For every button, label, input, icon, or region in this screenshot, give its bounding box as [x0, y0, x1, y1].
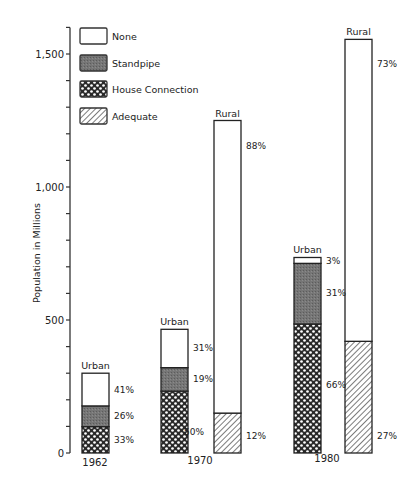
legend-swatch-house [80, 81, 107, 97]
pct-label-1970-urban-standpipe: 19% [193, 374, 213, 384]
pct-label-1970-urban-house: 50% [184, 427, 204, 437]
legend-swatch-adequate [80, 108, 107, 124]
legend-label-house: House Connection [112, 84, 199, 95]
bar-segment-1970-rural-adequate [214, 413, 241, 453]
year-label-1962: 1962 [82, 457, 107, 468]
bar-segment-1970-urban-house [161, 391, 188, 453]
y-tick-label: 0 [58, 448, 64, 459]
bar-segment-1980-urban-standpipe [294, 263, 321, 324]
bar-segment-1980-rural-none [345, 39, 372, 341]
pct-label-1980-rural-adequate: 27% [377, 431, 397, 441]
bar-label-1962-urban: Urban [81, 360, 110, 371]
year-label-1980: 1980 [314, 453, 339, 464]
y-tick-label: 1,500 [35, 49, 64, 60]
pct-label-1980-rural-none: 73% [377, 59, 397, 69]
legend-swatch-none [80, 28, 107, 44]
water-supply-chart: 05001,0001,500 NoneStandpipeHouse Connec… [0, 0, 416, 486]
legend-swatch-standpipe [80, 55, 107, 71]
pct-label-1962-urban-house: 33% [114, 435, 134, 445]
y-tick-label: 500 [45, 315, 64, 326]
pct-label-1980-urban-house: 66% [326, 380, 346, 390]
pct-label-1970-urban-none: 31% [193, 343, 213, 353]
legend-label-none: None [112, 31, 137, 42]
bar-segment-1970-rural-none [214, 121, 241, 414]
legend: NoneStandpipeHouse ConnectionAdequate [80, 28, 199, 124]
bar-segment-1980-urban-none [294, 257, 321, 263]
bar-segment-1980-rural-adequate [345, 341, 372, 453]
bar-segment-1970-urban-none [161, 329, 188, 367]
legend-label-standpipe: Standpipe [112, 58, 160, 69]
pct-label-1962-urban-standpipe: 26% [114, 411, 134, 421]
bar-segment-1962-urban-standpipe [82, 406, 109, 427]
bar-segment-1980-urban-house [294, 324, 321, 453]
pct-label-1980-urban-standpipe: 31% [326, 288, 346, 298]
legend-label-adequate: Adequate [112, 111, 158, 122]
pct-label-1980-urban-none: 3% [326, 256, 341, 266]
bar-segment-1962-urban-none [82, 373, 109, 406]
bar-label-1980-rural: Rural [346, 26, 371, 37]
y-axis-title: Population in Millions [31, 203, 42, 303]
bar-segment-1970-urban-standpipe [161, 368, 188, 392]
year-label-1970: 1970 [187, 455, 212, 466]
bar-label-1970-rural: Rural [215, 108, 240, 119]
pct-label-1962-urban-none: 41% [114, 385, 134, 395]
pct-label-1970-rural-none: 88% [246, 141, 266, 151]
bar-segment-1962-urban-house [82, 427, 109, 453]
bar-label-1980-urban: Urban [293, 244, 322, 255]
bar-label-1970-urban: Urban [160, 316, 189, 327]
pct-label-1970-rural-adequate: 12% [246, 431, 266, 441]
y-tick-label: 1,000 [35, 182, 64, 193]
